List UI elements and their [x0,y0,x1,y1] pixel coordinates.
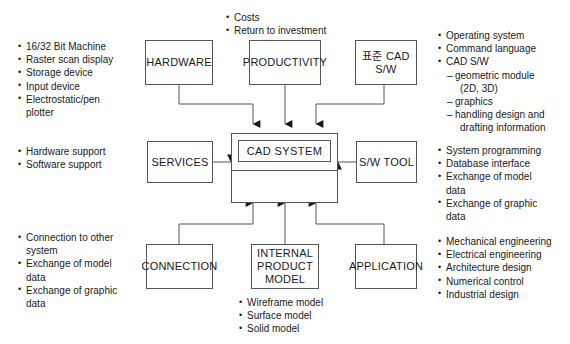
note-item: Surface model [239,309,369,322]
notes-services-list: Hardware supportSoftware support [18,145,140,171]
node-connection[interactable]: CONNECTION [146,244,213,289]
cad-system-divider [232,170,337,171]
note-item: Exchange of model [438,170,566,183]
notes-productivity: CostsReturn to investment [226,11,366,37]
note-item: System programming [438,144,566,157]
node-hardware-label: HARDWARE [146,56,211,69]
node-sw-tool-label: S/W TOOL [359,156,414,169]
note-item: handling design and [438,108,566,121]
note-item: Exchange of graphic [438,197,566,210]
note-item: Connection to other [18,231,144,244]
note-item: Electrostatic/pen [18,93,140,106]
cad-system-box[interactable]: CAD SYSTEM [238,140,331,162]
note-item: Exchange of graphic [18,284,144,297]
note-item: Command language [438,42,566,55]
node-standard-cad-sw-label: 표준 CAD S/W [362,50,409,76]
note-item: Solid model [239,322,369,335]
note-item: system [18,244,144,257]
note-item: Architecture design [438,261,568,274]
note-item: graphics [438,95,566,108]
node-application-label: APPLICATION [349,260,423,273]
notes-sw-tool: System programmingDatabase interfaceExch… [438,144,566,223]
node-services-label: SERVICES [151,156,208,169]
note-item: 16/32 Bit Machine [18,40,140,53]
notes-application-list: Mechanical engineeringElectrical enginee… [438,235,568,301]
notes-productivity-list: CostsReturn to investment [226,11,366,37]
notes-internal-product-model: Wireframe modelSurface modelSolid model [239,296,369,336]
note-item: Electrical engineering [438,248,568,261]
note-item: data [438,184,566,197]
connector-standard-cad-to-hub [316,85,384,124]
note-item: Costs [226,11,366,24]
note-item: Industrial design [438,288,568,301]
note-item: Mechanical engineering [438,235,568,248]
note-item: drafting information [438,121,566,134]
note-item: Database interface [438,157,566,170]
note-item: Exchange of model [18,257,144,270]
notes-connection: Connection to othersystemExchange of mod… [18,231,144,310]
notes-hardware: 16/32 Bit MachineRaster scan displayStor… [18,40,140,119]
notes-services: Hardware supportSoftware support [18,145,140,171]
node-productivity-label: PRODUCTIVITY [243,56,327,69]
note-item: geometric module [438,69,566,82]
note-item: Wireframe model [239,296,369,309]
note-item: data [438,210,566,223]
notes-sw-tool-list: System programmingDatabase interfaceExch… [438,144,566,223]
notes-hardware-list: 16/32 Bit MachineRaster scan displayStor… [18,40,140,119]
notes-application: Mechanical engineeringElectrical enginee… [438,235,568,301]
note-item: Input device [18,80,140,93]
note-item: CAD S/W [438,55,566,68]
note-item: (2D, 3D) [438,82,566,95]
node-connection-label: CONNECTION [142,260,218,273]
notes-standard-cad-sw: Operating systemCommand languageCAD S/Wg… [438,29,566,135]
node-application[interactable]: APPLICATION [355,244,417,289]
note-item: data [18,271,144,284]
node-productivity[interactable]: PRODUCTIVITY [249,40,321,85]
node-services[interactable]: SERVICES [147,141,213,183]
note-item: Software support [18,158,140,171]
note-item: Hardware support [18,145,140,158]
connector-hardware-to-hub [179,85,253,124]
notes-connection-list: Connection to othersystemExchange of mod… [18,231,144,310]
note-item: data [18,297,144,310]
node-standard-cad-sw[interactable]: 표준 CAD S/W [355,40,417,85]
node-internal-product-model-label: INTERNAL PRODUCT MODEL [257,247,313,286]
connector-connection-to-hub [179,203,253,244]
note-item: Return to investment [226,24,366,37]
notes-standard-cad-sw-list: Operating systemCommand languageCAD S/Wg… [438,29,566,135]
note-item: Storage device [18,66,140,79]
note-item: Numerical control [438,275,568,288]
note-item: Operating system [438,29,566,42]
node-sw-tool[interactable]: S/W TOOL [356,141,417,183]
diagram-canvas: HARDWARE PRODUCTIVITY 표준 CAD S/W SERVICE… [0,0,570,344]
connector-application-to-hub [316,203,384,244]
note-item: Raster scan display [18,53,140,66]
node-hardware[interactable]: HARDWARE [145,40,213,85]
cad-system-label: CAD SYSTEM [247,145,323,157]
notes-internal-product-model-list: Wireframe modelSurface modelSolid model [239,296,369,336]
node-internal-product-model[interactable]: INTERNAL PRODUCT MODEL [251,244,319,289]
note-item: plotter [18,106,140,119]
